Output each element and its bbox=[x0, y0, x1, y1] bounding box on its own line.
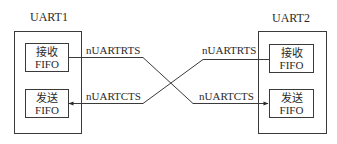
uart2-transmit-fifo: 发送 FIFO bbox=[270, 90, 314, 118]
uart2-block: UART2 接收 FIFO 发送 FIFO bbox=[259, 11, 327, 134]
uart2-rts-label: nUARTRTS bbox=[202, 44, 256, 56]
uart-flow-control-diagram: UART1 接收 FIFO 发送 FIFO UART2 接收 FIFO 发送 F… bbox=[0, 0, 337, 144]
uart2-title: UART2 bbox=[272, 11, 310, 25]
uart2-cts-label: nUARTCTS bbox=[199, 90, 254, 102]
uart1-transmit-fifo-sublabel: FIFO bbox=[35, 104, 59, 116]
uart2-receive-fifo-label: 接收 bbox=[281, 46, 303, 59]
uart1-receive-fifo: 接收 FIFO bbox=[26, 44, 69, 72]
uart2-transmit-fifo-sublabel: FIFO bbox=[280, 104, 304, 116]
uart1-transmit-fifo-label: 发送 bbox=[36, 91, 58, 104]
uart1-rts-label: nUARTRTS bbox=[86, 44, 140, 56]
uart1-transmit-fifo: 发送 FIFO bbox=[26, 90, 69, 118]
uart2-transmit-fifo-label: 发送 bbox=[281, 91, 303, 104]
uart1-receive-fifo-sublabel: FIFO bbox=[35, 58, 59, 70]
uart1-block: UART1 接收 FIFO 发送 FIFO bbox=[15, 10, 82, 134]
uart1-receive-fifo-label: 接收 bbox=[36, 45, 58, 58]
uart2-receive-fifo: 接收 FIFO bbox=[270, 45, 314, 73]
uart1-cts-label: nUARTCTS bbox=[86, 90, 141, 102]
uart1-title: UART1 bbox=[30, 10, 68, 24]
uart2-receive-fifo-sublabel: FIFO bbox=[280, 59, 304, 71]
